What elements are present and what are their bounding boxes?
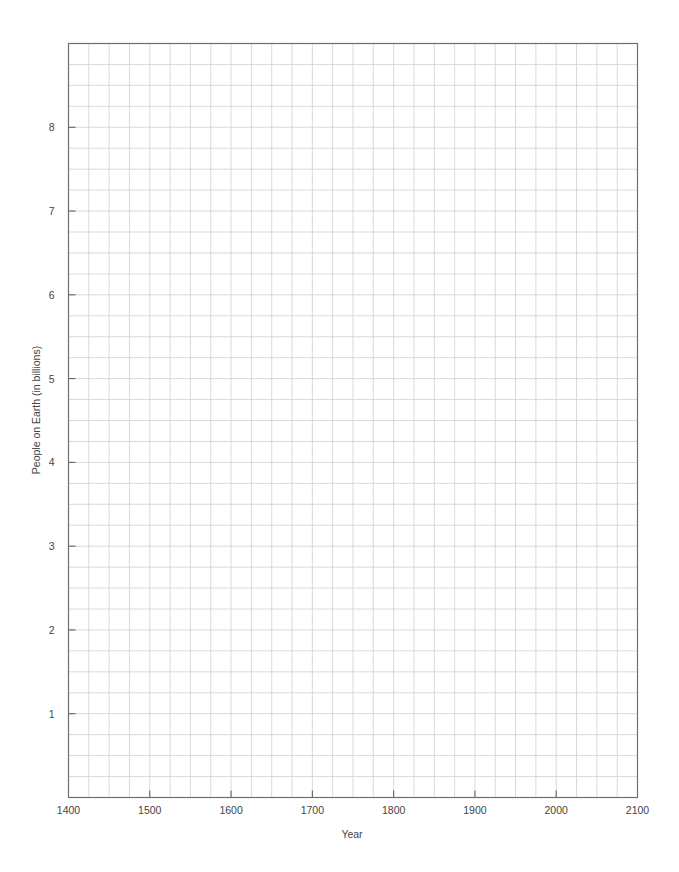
x-tick-label: 1800 — [382, 804, 406, 816]
y-tick-label: 6 — [49, 289, 55, 301]
y-axis-title: People on Earth (in billions) — [30, 346, 42, 474]
y-tick-label: 2 — [49, 624, 55, 636]
x-tick-label: 1500 — [138, 804, 162, 816]
x-axis-title: Year — [341, 828, 363, 840]
population-chart: 14001500160017001800190020002100 1234567… — [0, 0, 679, 872]
y-tick-label: 1 — [49, 708, 55, 720]
x-tick-label: 1600 — [219, 804, 243, 816]
y-tick-label: 7 — [49, 205, 55, 217]
y-axis-tick-labels: 12345678 — [49, 121, 55, 719]
x-axis-tick-labels: 14001500160017001800190020002100 — [57, 804, 650, 816]
y-tick-label: 5 — [49, 373, 55, 385]
x-tick-label: 2000 — [545, 804, 569, 816]
y-tick-label: 8 — [49, 121, 55, 133]
y-tick-label: 4 — [49, 456, 55, 468]
y-tick-label: 3 — [49, 540, 55, 552]
x-tick-label: 1900 — [463, 804, 487, 816]
x-tick-label: 1400 — [57, 804, 81, 816]
x-tick-label: 2100 — [626, 804, 650, 816]
x-tick-label: 1700 — [301, 804, 325, 816]
